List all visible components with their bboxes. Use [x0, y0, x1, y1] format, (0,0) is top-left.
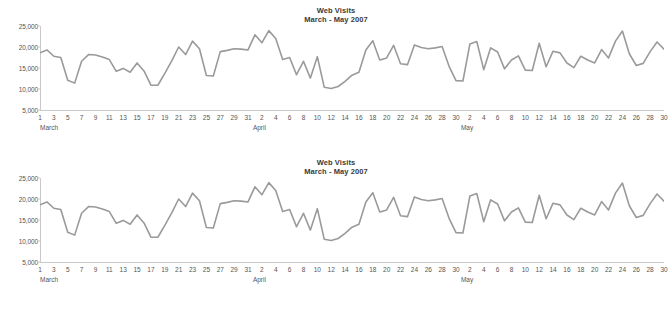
x-tick-label: 16 — [355, 266, 362, 273]
x-tick-label: 14 — [341, 114, 348, 121]
x-tick-label: 25 — [203, 266, 210, 273]
x-tick-label: 7 — [80, 266, 84, 273]
x-tick-label: 31 — [244, 266, 251, 273]
x-tick-label: 14 — [341, 266, 348, 273]
x-tick-label: 11 — [106, 266, 113, 273]
month-labels: MarchAprilMay — [40, 276, 664, 288]
y-tick-label: 10,000 — [19, 238, 38, 245]
y-tick-mark — [37, 178, 40, 179]
x-tick-label: 8 — [302, 114, 306, 121]
y-tick-label: 25,000 — [19, 23, 38, 30]
y-tick-label: 5,000 — [22, 107, 38, 114]
y-tick-label: 10,000 — [19, 86, 38, 93]
x-tick-label: 18 — [577, 114, 584, 121]
x-tick-label: 17 — [147, 266, 154, 273]
x-tick-label: 21 — [175, 114, 182, 121]
x-tick-label: 16 — [563, 266, 570, 273]
x-tick-label: 28 — [439, 266, 446, 273]
x-tick-label: 8 — [510, 266, 514, 273]
x-tick-label: 20 — [591, 266, 598, 273]
x-tick-label: 22 — [397, 266, 404, 273]
month-label: March — [40, 124, 58, 131]
x-tick-label: 10 — [314, 266, 321, 273]
month-label: April — [253, 124, 266, 131]
chart-panel-top: Web Visits March - May 2007 5,00010,0001… — [0, 0, 672, 152]
x-tick-label: 23 — [189, 266, 196, 273]
plot-area: 5,00010,00015,00020,00025,000 1357911131… — [0, 178, 672, 268]
x-tick-label: 4 — [482, 266, 486, 273]
x-tick-label: 2 — [468, 114, 472, 121]
x-tick-label: 12 — [536, 114, 543, 121]
x-tick-label: 29 — [231, 266, 238, 273]
y-tick-mark — [37, 262, 40, 263]
x-tick-label: 9 — [94, 266, 98, 273]
x-tick-label: 6 — [288, 114, 292, 121]
x-tick-label: 19 — [161, 266, 168, 273]
x-tick-label: 18 — [369, 266, 376, 273]
x-tick-label: 1 — [38, 114, 42, 121]
y-tick-mark — [37, 68, 40, 69]
x-tick-label: 12 — [328, 114, 335, 121]
x-tick-label: 20 — [591, 114, 598, 121]
x-tick-label: 18 — [369, 114, 376, 121]
y-tick-label: 20,000 — [19, 196, 38, 203]
x-tick-label: 4 — [482, 114, 486, 121]
x-tick-label: 18 — [577, 266, 584, 273]
chart-subtitle: March - May 2007 — [0, 167, 672, 177]
x-tick-label: 6 — [496, 266, 500, 273]
x-tick-label: 7 — [80, 114, 84, 121]
month-label: May — [461, 276, 473, 283]
x-tick-label: 5 — [66, 266, 70, 273]
x-tick-label: 26 — [633, 114, 640, 121]
series-line — [40, 26, 664, 110]
month-label: April — [253, 276, 266, 283]
x-tick-label: 2 — [260, 266, 264, 273]
x-tick-label: 10 — [522, 266, 529, 273]
x-tick-label: 24 — [619, 114, 626, 121]
chart-subtitle: March - May 2007 — [0, 15, 672, 25]
y-tick-mark — [37, 110, 40, 111]
x-tick-label: 30 — [660, 114, 667, 121]
y-axis-labels: 5,00010,00015,00020,00025,000 — [8, 178, 38, 262]
y-tick-mark — [37, 47, 40, 48]
y-axis-labels: 5,00010,00015,00020,00025,000 — [8, 26, 38, 110]
x-tick-label: 15 — [133, 114, 140, 121]
month-labels: MarchAprilMay — [40, 124, 664, 136]
x-tick-label: 2 — [468, 266, 472, 273]
month-label: March — [40, 276, 58, 283]
x-tick-label: 28 — [439, 114, 446, 121]
x-tick-label: 22 — [605, 266, 612, 273]
x-tick-label: 14 — [549, 114, 556, 121]
x-tick-label: 23 — [189, 114, 196, 121]
x-tick-label: 29 — [231, 114, 238, 121]
x-tick-label: 22 — [397, 114, 404, 121]
x-tick-label: 30 — [452, 114, 459, 121]
x-tick-label: 13 — [120, 266, 127, 273]
x-tick-label: 6 — [496, 114, 500, 121]
y-tick-label: 15,000 — [19, 217, 38, 224]
series-line — [40, 178, 664, 262]
x-tick-label: 24 — [411, 114, 418, 121]
x-tick-label: 12 — [328, 266, 335, 273]
x-tick-label: 28 — [647, 114, 654, 121]
y-tick-label: 25,000 — [19, 175, 38, 182]
x-axis-line — [40, 110, 664, 111]
x-tick-label: 13 — [120, 114, 127, 121]
y-tick-mark — [37, 220, 40, 221]
x-tick-label: 26 — [425, 266, 432, 273]
month-label: May — [461, 124, 473, 131]
x-tick-label: 19 — [161, 114, 168, 121]
x-tick-label: 24 — [411, 266, 418, 273]
x-tick-label: 8 — [510, 114, 514, 121]
x-tick-label: 16 — [563, 114, 570, 121]
x-tick-label: 5 — [66, 114, 70, 121]
x-tick-label: 20 — [383, 114, 390, 121]
x-tick-label: 15 — [133, 266, 140, 273]
y-tick-mark — [37, 26, 40, 27]
x-tick-label: 16 — [355, 114, 362, 121]
x-tick-label: 26 — [633, 266, 640, 273]
x-tick-label: 30 — [660, 266, 667, 273]
x-tick-label: 25 — [203, 114, 210, 121]
x-tick-label: 26 — [425, 114, 432, 121]
x-tick-label: 1 — [38, 266, 42, 273]
